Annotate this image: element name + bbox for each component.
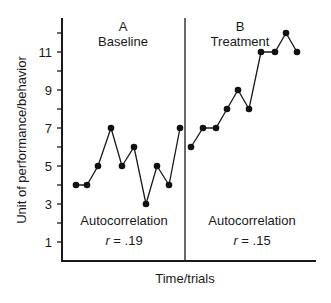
series-line <box>191 33 297 147</box>
series-line <box>76 128 180 204</box>
data-point <box>166 182 173 189</box>
data-point <box>272 49 279 56</box>
data-point <box>95 163 102 170</box>
autocorr-b-label: Autocorrelation <box>208 213 295 228</box>
x-axis-label: Time/trials <box>155 271 215 286</box>
ytick-label-9: 9 <box>45 83 52 98</box>
data-point <box>143 201 150 208</box>
autocorr-a-value: r = .19 <box>105 233 142 248</box>
data-point <box>84 182 91 189</box>
data-point <box>213 125 220 132</box>
data-point <box>108 125 115 132</box>
data-point <box>258 49 265 56</box>
data-point <box>131 144 138 151</box>
data-point <box>283 30 290 37</box>
y-axis-label: Unit of performance/behavior <box>14 56 29 224</box>
phase-a-letter: A <box>119 19 128 34</box>
data-point <box>200 125 207 132</box>
autocorr-b-value: r = .15 <box>233 233 270 248</box>
data-point <box>294 49 301 56</box>
data-point <box>224 106 231 113</box>
data-point <box>188 144 195 151</box>
ytick-label-5: 5 <box>45 159 52 174</box>
ab-design-chart: 11 9 7 5 3 1 Unit of performance/behavio… <box>0 0 331 303</box>
autocorr-a-label: Autocorrelation <box>80 213 167 228</box>
ytick-label-11: 11 <box>39 45 53 60</box>
data-point <box>235 87 242 94</box>
data-point <box>154 163 161 170</box>
data-point <box>177 125 184 132</box>
data-point <box>119 163 126 170</box>
data-point <box>246 106 253 113</box>
ytick-label-1: 1 <box>45 235 52 250</box>
ytick-label-7: 7 <box>45 121 52 136</box>
phase-b-name: Treatment <box>211 34 270 49</box>
baseline-series <box>73 125 184 208</box>
data-point <box>73 182 80 189</box>
phase-b-letter: B <box>236 19 245 34</box>
phase-a-name: Baseline <box>98 34 148 49</box>
ytick-label-3: 3 <box>45 197 52 212</box>
